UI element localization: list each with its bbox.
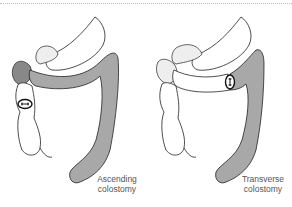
ascending-colon-shape — [16, 83, 41, 155]
transverse-colon-proximal — [173, 70, 230, 92]
caption-line-2: colostomy — [92, 184, 142, 194]
ascending-colon-shape — [160, 83, 185, 155]
appendix-shape — [184, 148, 196, 157]
stomach-shape — [46, 17, 105, 70]
caption-line-1: Transverse — [238, 174, 288, 184]
hepatic-flexure-shape — [12, 61, 31, 85]
caption-line-1: Ascending — [92, 174, 142, 184]
appendix-shape — [40, 148, 52, 157]
caption-line-2: colostomy — [238, 184, 288, 194]
panel-transverse-colostomy: Transverse colostomy — [146, 0, 292, 207]
caption-ascending-colostomy: Ascending colostomy — [92, 174, 142, 194]
stomach-shape — [192, 17, 251, 70]
colon-shaded-segment — [29, 53, 118, 183]
colon-shaded-segment — [216, 50, 264, 183]
panel-ascending-colostomy: Ascending colostomy — [0, 0, 146, 207]
caption-transverse-colostomy: Transverse colostomy — [238, 174, 288, 194]
